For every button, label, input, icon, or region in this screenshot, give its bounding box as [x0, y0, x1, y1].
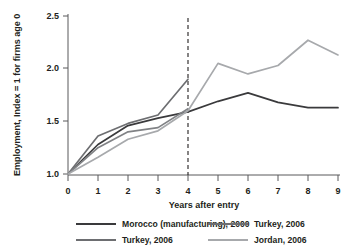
x-tick-label: 5	[215, 186, 220, 196]
x-tick-label: 4	[185, 186, 190, 196]
x-tick-label: 2	[125, 186, 130, 196]
x-tick-label: 9	[335, 186, 340, 196]
chart-svg: 2.5 2.0 1.5 1.0 Employment, Index = 1 fo…	[0, 0, 350, 252]
x-tick-label: 6	[245, 186, 250, 196]
chart-background	[0, 0, 350, 252]
y-tick-label: 1.0	[46, 169, 59, 179]
x-axis-title: Years after entry	[169, 200, 240, 210]
y-tick-label: 2.0	[46, 63, 59, 73]
x-tick-label: 1	[95, 186, 100, 196]
x-tick-label: 8	[305, 186, 310, 196]
x-tick-label: 3	[155, 186, 160, 196]
y-tick-label: 1.5	[46, 116, 59, 126]
legend-label: Jordan, 2006	[254, 235, 307, 245]
legend-label: Turkey, 2006	[122, 235, 173, 245]
y-tick-label: 2.5	[46, 11, 59, 21]
x-tick-label: 0	[65, 186, 70, 196]
legend-label: Turkey, 2006	[254, 219, 305, 229]
chart-figure: 2.5 2.0 1.5 1.0 Employment, Index = 1 fo…	[0, 0, 350, 252]
y-axis-title: Employment, Index = 1 for firms age 0	[12, 14, 22, 176]
x-tick-label: 7	[275, 186, 280, 196]
